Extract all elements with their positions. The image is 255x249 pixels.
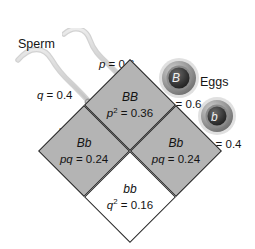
sperm-frequency-p-symbol: p — [99, 58, 105, 70]
punnett-cell-Bb-right-symbol: pq — [152, 153, 165, 165]
punnett-cell-Bb-right-value: 0.24 — [178, 153, 200, 165]
punnett-cell-bb-value: 0.16 — [131, 199, 153, 211]
punnett-cell-bb-genotype: bb — [107, 181, 153, 197]
egg-frequency-p-value: 0.6 — [186, 98, 202, 110]
sperm-group-label: Sperm — [18, 38, 55, 51]
punnett-cell-bb-text: bb q2 = 0.16 — [107, 181, 153, 214]
egg-frequency-q-value: 0.4 — [226, 138, 242, 150]
punnett-cell-BB-genotype: BB — [107, 89, 153, 105]
sperm-frequency-q-label: q = 0.4 — [37, 90, 73, 102]
punnett-cell-BB-exponent: 2 — [113, 105, 117, 114]
punnett-cell-Bb-left-value: 0.24 — [86, 153, 108, 165]
punnett-cell-Bb-left-symbol: pq — [60, 153, 73, 165]
punnett-cell-BB-frequency: p2 = 0.36 — [107, 106, 153, 122]
punnett-cell-Bb-right-genotype: Bb — [152, 135, 200, 151]
punnett-cell-Bb-left-text: Bb pq = 0.24 — [60, 135, 108, 168]
punnett-cell-Bb-right-frequency: pq = 0.24 — [152, 152, 200, 168]
punnett-cell-BB-text: BB p2 = 0.36 — [107, 89, 153, 122]
punnett-cell-BB-value: 0.36 — [131, 107, 153, 119]
punnett-cell-bb-frequency: q2 = 0.16 — [107, 198, 153, 214]
hardy-weinberg-punnett-figure: B b B b Sperm Eggs p = 0.6 q = 0.4 p = 0… — [0, 0, 255, 249]
punnett-cell-Bb-left-genotype: Bb — [60, 135, 108, 151]
punnett-cell-Bb-left-frequency: pq = 0.24 — [60, 152, 108, 168]
egg-allele-label-b: b — [211, 111, 218, 123]
eggs-group-label: Eggs — [200, 76, 229, 89]
sperm-frequency-q-symbol: q — [37, 89, 43, 101]
punnett-cell-bb-exponent: 2 — [113, 197, 117, 206]
egg-allele-label-B: B — [172, 72, 180, 84]
punnett-cell-Bb-right-text: Bb pq = 0.24 — [152, 135, 200, 168]
sperm-frequency-q-value: 0.4 — [57, 89, 73, 101]
